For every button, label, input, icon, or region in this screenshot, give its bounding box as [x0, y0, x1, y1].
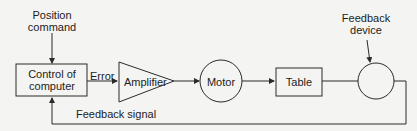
control-line1: Control of [28, 68, 76, 80]
feedback-device-line2: device [342, 24, 390, 36]
feedback-device-pointer-arrow [367, 40, 370, 62]
feedback-device-circle [358, 63, 394, 99]
position-command-line1: Position [28, 9, 76, 21]
feedback-signal-label: Feedback signal [76, 108, 156, 120]
table-label: Table [286, 76, 312, 88]
motor-label: Motor [207, 76, 235, 88]
position-command-label: Position command [28, 9, 76, 33]
error-label: Error [90, 70, 114, 82]
amplifier-label: Amplifier [124, 76, 167, 88]
control-of-computer-label: Control of computer [28, 68, 76, 92]
position-command-line2: command [28, 21, 76, 33]
feedback-device-line1: Feedback [342, 12, 390, 24]
control-line2: computer [28, 80, 76, 92]
feedback-device-label: Feedback device [342, 12, 390, 36]
